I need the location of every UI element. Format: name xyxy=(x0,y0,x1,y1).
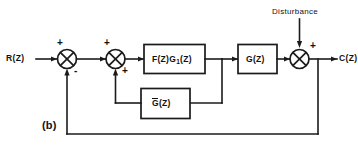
arrowhead-forward-block-1-input xyxy=(138,56,144,61)
arrowhead-sum-outer-input xyxy=(51,56,57,61)
output-signal-label: C(Z) xyxy=(339,54,358,63)
figure-label: (b) xyxy=(42,120,57,131)
arrowhead-forward-block-2-input xyxy=(232,56,238,61)
block-forward-1-label-tail: (Z) xyxy=(180,54,192,64)
arrowhead-sum-outer-feedback xyxy=(64,69,69,76)
arrowhead-disturbance-input xyxy=(297,41,302,48)
block-diagram-figure: R(Z) C(Z) Disturbance F(Z)G1(Z) G(Z) G(Z… xyxy=(0,0,358,150)
block-forward-1-label-main: F(Z)G xyxy=(152,54,176,64)
sign-sum-inner-input: + xyxy=(104,38,110,48)
sign-sum-outer-feedback: - xyxy=(74,66,78,76)
block-inner-feedback-label-main: G xyxy=(152,99,159,108)
block-forward-1-label: F(Z)G1(Z) xyxy=(152,55,192,64)
block-forward-2-label: G(Z) xyxy=(246,55,265,64)
block-inner-feedback-label-tail: (Z) xyxy=(159,98,171,108)
disturbance-label: Disturbance xyxy=(272,8,318,16)
input-signal-label: R(Z) xyxy=(6,54,25,63)
block-forward-1-label-subscript: 1 xyxy=(176,58,180,65)
sign-sum-outer-input: + xyxy=(57,38,63,48)
arrowhead-sum-inner-feedback xyxy=(113,69,118,76)
sign-sum-inner-feedback: + xyxy=(122,66,128,76)
block-inner-feedback-label: G(Z) xyxy=(152,99,171,108)
arrowhead-output xyxy=(331,56,337,61)
arrowhead-sum-inner-input xyxy=(100,56,106,61)
arrowhead-sum-disturbance-input xyxy=(284,56,290,61)
sign-sum-disturbance-input: + xyxy=(310,41,316,51)
